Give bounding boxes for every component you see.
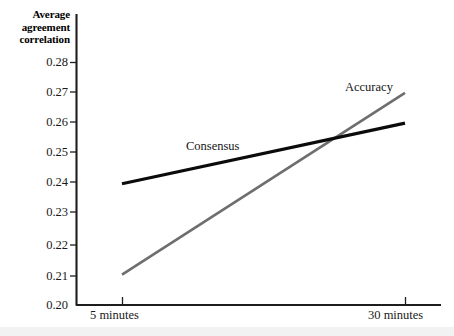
x-axis-ticks — [123, 297, 406, 305]
y-axis-title: Average agreement correlation — [8, 8, 70, 46]
y-tick-label-0.24: 0.24 — [22, 176, 68, 188]
x-tick-label-5-minutes: 5 minutes — [90, 309, 139, 322]
y-tick-label-0.28: 0.28 — [22, 56, 68, 68]
series-label-consensus: Consensus — [186, 139, 239, 154]
bottom-band — [0, 327, 454, 336]
x-tick-label-30-minutes: 30 minutes — [368, 309, 423, 322]
y-tick-label-0.23: 0.23 — [22, 206, 68, 218]
y-tick-label-0.26: 0.26 — [22, 116, 68, 128]
chart-plot-area — [0, 0, 454, 336]
y-tick-label-0.25: 0.25 — [22, 146, 68, 158]
y-axis-title-line-3: correlation — [8, 33, 70, 46]
y-axis-title-line-2: agreement — [8, 21, 70, 34]
y-axis-ticks — [70, 63, 76, 277]
y-tick-label-0.22: 0.22 — [22, 239, 68, 251]
series-line-accuracy — [122, 93, 405, 275]
y-tick-label-0.20: 0.20 — [22, 299, 68, 311]
y-axis-title-line-1: Average — [8, 8, 70, 21]
series-label-accuracy: Accuracy — [345, 80, 393, 95]
y-tick-label-0.27: 0.27 — [22, 86, 68, 98]
chart-figure: Average agreement correlation 0.28 0.27 … — [0, 0, 454, 336]
series-line-consensus — [122, 123, 405, 184]
y-tick-label-0.21: 0.21 — [22, 270, 68, 282]
